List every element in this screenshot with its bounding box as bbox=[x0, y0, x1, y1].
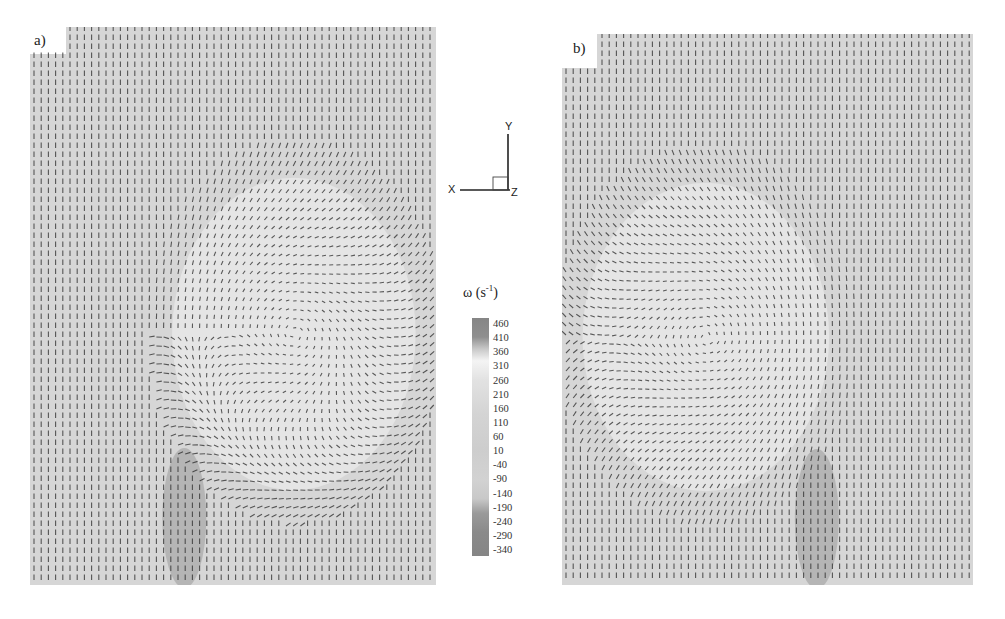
colorbar-tick-label: -140 bbox=[493, 489, 512, 499]
colorbar-ticks: 4604103603102602101601106010-40-90-140-1… bbox=[493, 318, 533, 556]
colorbar-tick-label: 10 bbox=[493, 446, 504, 456]
colorbar-tick-label: -240 bbox=[493, 517, 512, 527]
colorbar-tick-label: 110 bbox=[493, 418, 508, 428]
axis-triad-icon bbox=[440, 120, 540, 210]
colorbar-tick-label: 160 bbox=[493, 404, 509, 414]
axis-label-x: X bbox=[448, 183, 455, 195]
axis-triad: Y X Z bbox=[440, 120, 540, 210]
axis-label-z: Z bbox=[511, 186, 518, 198]
colorbar-tick-label: -290 bbox=[493, 531, 512, 541]
colorbar-tick-label: 60 bbox=[493, 432, 504, 442]
axis-label-y: Y bbox=[505, 120, 512, 132]
colorbar-tick-label: -340 bbox=[493, 545, 512, 555]
vector-field-panel-b bbox=[562, 34, 973, 585]
colorbar-tick-label: -190 bbox=[493, 503, 512, 513]
colorbar-tick-label: 410 bbox=[493, 333, 509, 343]
colorbar bbox=[472, 318, 489, 556]
panel-label-a: a) bbox=[34, 32, 46, 49]
colorbar-tick-label: -90 bbox=[493, 474, 507, 484]
colorbar-tick-label: 360 bbox=[493, 347, 509, 357]
colorbar-tick-label: 460 bbox=[493, 319, 509, 329]
colorbar-title: ω (s-1) bbox=[463, 283, 498, 301]
colorbar-tick-label: -40 bbox=[493, 460, 507, 470]
colorbar-tick-label: 260 bbox=[493, 376, 509, 386]
colorbar-tick-label: 310 bbox=[493, 361, 509, 371]
vector-field-panel-a bbox=[30, 27, 436, 585]
colorbar-tick-label: 210 bbox=[493, 390, 509, 400]
panel-label-b: b) bbox=[573, 40, 586, 57]
